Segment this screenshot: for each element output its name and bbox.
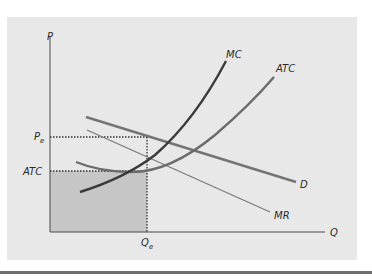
- qe-main: Q: [141, 237, 149, 248]
- shaded-cost-area: [50, 171, 147, 232]
- bottom-divider: [0, 271, 372, 274]
- pe-label: Pe: [34, 131, 44, 145]
- demand-label: D: [300, 179, 308, 190]
- mr-label: MR: [274, 210, 290, 221]
- x-axis-label: Q: [330, 227, 338, 238]
- atc-curve: [76, 77, 274, 172]
- y-axis-label: P: [47, 31, 54, 42]
- atc-curve-label: ATC: [275, 63, 295, 74]
- pe-subscript: e: [40, 137, 44, 145]
- atc-level-label: ATC: [22, 166, 42, 177]
- qe-label: Qe: [141, 237, 153, 251]
- mc-label: MC: [226, 49, 242, 60]
- qe-subscript: e: [149, 243, 153, 251]
- cost-curve-diagram: P Q MC ATC D MR ATC Pe Qe: [0, 0, 372, 279]
